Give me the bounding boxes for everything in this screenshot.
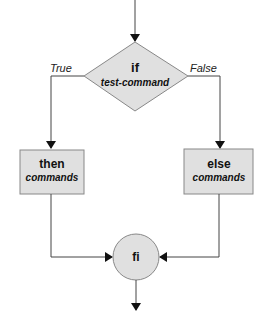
- else-text: commands: [193, 172, 246, 183]
- else-to-fi-line: [160, 194, 219, 257]
- false-label: False: [190, 62, 217, 74]
- decision-node: if test-command: [84, 42, 188, 111]
- then-text: commands: [26, 172, 79, 183]
- fi-node: fi: [113, 234, 159, 280]
- true-label: True: [50, 62, 72, 74]
- false-branch-line: [188, 76, 220, 148]
- then-box: then commands: [20, 150, 84, 194]
- true-branch-line: [51, 76, 84, 148]
- else-keyword: else: [207, 157, 231, 171]
- decision-text: test-command: [101, 77, 170, 88]
- then-to-fi-line: [51, 194, 112, 257]
- fi-keyword: fi: [132, 250, 139, 264]
- decision-keyword: if: [131, 60, 140, 75]
- then-keyword: then: [39, 157, 64, 171]
- if-then-else-flowchart: if test-command True False then commands…: [0, 0, 265, 326]
- else-box: else commands: [184, 149, 253, 194]
